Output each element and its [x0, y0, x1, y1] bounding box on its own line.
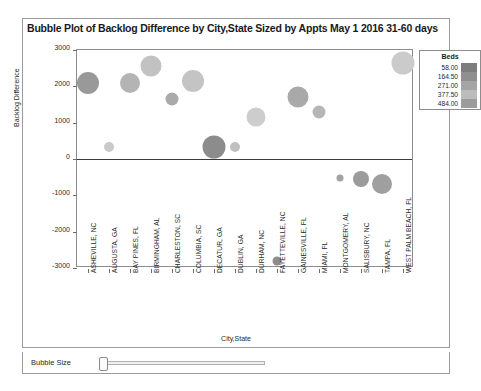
- controls-panel: Bubble Size: [22, 352, 450, 374]
- y-axis-tick-label: -1000: [42, 189, 70, 196]
- data-bubble[interactable]: [120, 73, 140, 93]
- y-axis-tick: [73, 50, 77, 51]
- x-axis-tick-label: FAYETTEVILLE, NC: [279, 211, 286, 273]
- legend-item-swatch: [461, 81, 477, 90]
- data-bubble[interactable]: [392, 51, 415, 74]
- x-axis-tick-label: DECATUR, GA: [216, 227, 223, 273]
- x-axis-tick-label: WEST PALM BEACH, FL: [405, 197, 412, 273]
- y-axis-title: Backlog Difference: [13, 68, 20, 127]
- x-axis-tick: [130, 269, 131, 273]
- data-bubble[interactable]: [165, 93, 178, 106]
- visualization-panel: Bubble Plot of Backlog Difference by Cit…: [22, 18, 450, 348]
- legend-item-value: 164.50: [422, 72, 458, 81]
- legend-item-swatch: [461, 90, 477, 99]
- x-axis-tick-label: DURHAM, NC: [258, 230, 265, 273]
- x-axis-tick: [235, 269, 236, 273]
- legend-item: 164.50: [422, 72, 480, 81]
- legend-item: 58.00: [422, 63, 480, 72]
- y-axis-tick: [73, 195, 77, 196]
- y-axis-tick-label: 0: [42, 153, 70, 160]
- data-bubble[interactable]: [353, 171, 369, 187]
- x-axis-tick-label: DUBLIN, GA: [237, 235, 244, 273]
- legend-title: Beds: [420, 53, 480, 60]
- legend-item-value: 484.00: [422, 99, 458, 108]
- bubble-size-slider-track[interactable]: [99, 361, 265, 365]
- bubble-size-slider-thumb[interactable]: [99, 357, 108, 371]
- x-axis-tick-label: MONTGOMERY, AL: [342, 212, 349, 273]
- y-axis-tick: [73, 232, 77, 233]
- y-axis-tick: [73, 123, 77, 124]
- x-axis-tick: [298, 269, 299, 273]
- x-axis-tick-label: BAY PINES, FL: [132, 226, 139, 273]
- x-axis-tick-label: SALISBURY, NC: [363, 222, 370, 273]
- zero-reference-line: [77, 159, 412, 160]
- legend-item-value: 58.00: [422, 63, 458, 72]
- data-bubble[interactable]: [182, 70, 204, 92]
- x-axis-tick: [277, 269, 278, 273]
- legend-item-swatch: [461, 72, 477, 81]
- x-axis-tick-label: GAINESVILLE, FL: [300, 217, 307, 273]
- x-axis-tick: [88, 269, 89, 273]
- x-axis-tick: [256, 269, 257, 273]
- x-axis-title: City,State: [23, 335, 449, 342]
- y-axis-tick-label: 1000: [42, 117, 70, 124]
- x-axis-tick: [214, 269, 215, 273]
- x-axis-tick-label: MIAMI, FL: [321, 242, 328, 273]
- legend-item: 484.00: [422, 99, 480, 108]
- data-bubble[interactable]: [230, 142, 240, 152]
- bubble-size-label: Bubble Size: [31, 358, 71, 367]
- x-axis-tick-label: COLUMBIA, SC: [195, 225, 202, 273]
- y-axis-tick: [73, 268, 77, 269]
- legend-item: 377.50: [422, 90, 480, 99]
- data-bubble[interactable]: [247, 108, 266, 127]
- y-axis-tick-label: 2000: [42, 80, 70, 87]
- x-axis-tick: [193, 269, 194, 273]
- x-axis-tick: [172, 269, 173, 273]
- data-bubble[interactable]: [337, 174, 344, 181]
- page-title: Bubble Plot of Backlog Difference by Cit…: [27, 22, 443, 34]
- data-bubble[interactable]: [202, 136, 225, 159]
- data-bubble[interactable]: [104, 142, 114, 152]
- data-bubble[interactable]: [77, 72, 99, 94]
- legend-item-swatch: [461, 99, 477, 108]
- x-axis-tick-label: CHARLESTON, SC: [174, 214, 181, 273]
- data-bubble[interactable]: [372, 174, 392, 194]
- data-bubble[interactable]: [288, 87, 309, 108]
- data-bubble[interactable]: [140, 55, 161, 76]
- legend-item-swatch: [461, 63, 477, 72]
- legend-item-value: 377.50: [422, 90, 458, 99]
- y-axis-tick-label: -3000: [42, 262, 70, 269]
- legend-item-value: 271.00: [422, 81, 458, 90]
- x-axis-tick-label: ASHEVILLE, NC: [90, 223, 97, 273]
- x-axis-tick: [151, 269, 152, 273]
- legend-item: 271.00: [422, 81, 480, 90]
- x-axis-tick: [109, 269, 110, 273]
- y-axis-tick-label: -2000: [42, 226, 70, 233]
- x-axis-tick-label: BIRMINGHAM, AL: [153, 217, 160, 273]
- y-axis-tick-label: 3000: [42, 44, 70, 51]
- x-axis-tick-label: TAMPA, FL: [384, 239, 391, 273]
- legend: Beds 58.00164.50271.00377.50484.00: [419, 50, 481, 110]
- data-bubble[interactable]: [313, 105, 326, 118]
- x-axis-tick-label: AUGUSTA, GA: [111, 227, 118, 273]
